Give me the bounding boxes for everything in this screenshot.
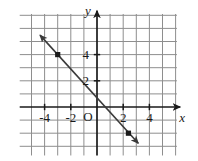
x-axis-tick-label: 4 — [146, 110, 153, 125]
y-axis-tick-label: 2 — [83, 73, 90, 88]
x-axis-tick-label: -4 — [39, 110, 50, 125]
axes — [20, 11, 180, 156]
graph-canvas: -4-22424Oxy — [0, 0, 198, 161]
x-axis-tick-label: 2 — [120, 110, 127, 125]
grid-lines — [20, 14, 177, 155]
y-axis-name: y — [83, 3, 91, 18]
data-point-marker — [55, 52, 60, 57]
x-axis-tick-label: -2 — [65, 110, 76, 125]
coordinate-plane-figure: -4-22424Oxy — [0, 0, 198, 161]
origin-label: O — [83, 109, 92, 124]
x-axis-name: x — [178, 110, 185, 125]
data-point-marker — [126, 131, 131, 136]
y-axis-tick-label: 4 — [83, 47, 90, 62]
